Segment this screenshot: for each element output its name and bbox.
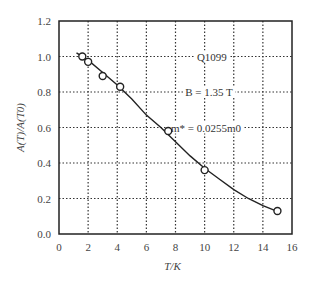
annotation-label: B = 1.35 T xyxy=(185,86,233,98)
data-point xyxy=(165,128,172,135)
y-tick-label: 1.0 xyxy=(37,51,51,63)
y-tick-label: 0.6 xyxy=(37,122,51,134)
data-point xyxy=(201,167,208,174)
x-tick-label: 6 xyxy=(144,241,150,253)
x-tick-label: 12 xyxy=(228,241,239,253)
y-tick-label: 1.2 xyxy=(37,15,51,27)
chart-container: Q1099B = 1.35 Tm* = 0.0255m0024681012141… xyxy=(0,0,312,291)
x-tick-label: 10 xyxy=(199,241,211,253)
y-tick-label: 0.4 xyxy=(37,157,51,169)
data-point xyxy=(99,73,106,80)
x-tick-label: 4 xyxy=(115,241,121,253)
y-axis-label: A(T)/A(T0) xyxy=(14,103,27,153)
x-tick-label: 0 xyxy=(56,241,62,253)
y-tick-label: 0.0 xyxy=(37,228,51,240)
data-point xyxy=(79,53,86,60)
x-tick-label: 8 xyxy=(173,241,179,253)
x-tick-label: 16 xyxy=(287,241,299,253)
data-point xyxy=(85,58,92,65)
x-tick-label: 2 xyxy=(85,241,91,253)
data-point xyxy=(274,207,281,214)
x-axis-label: T/K xyxy=(164,260,181,272)
annotation-label: m* = 0.0255m0 xyxy=(171,122,242,134)
y-tick-label: 0.2 xyxy=(37,193,51,205)
annotation-label: Q1099 xyxy=(197,51,227,63)
y-tick-label: 0.8 xyxy=(37,86,51,98)
data-point xyxy=(117,83,124,90)
chart-svg: Q1099B = 1.35 Tm* = 0.0255m0024681012141… xyxy=(0,0,312,291)
x-tick-label: 14 xyxy=(257,241,269,253)
